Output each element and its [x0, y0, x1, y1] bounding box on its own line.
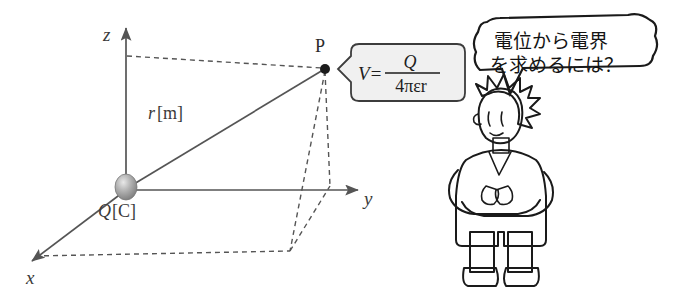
- point-p-marker: [320, 64, 330, 74]
- dashed-floor-bottom-edge: [35, 251, 290, 256]
- character-right-shoe: [504, 268, 539, 286]
- y-axis-label: y: [362, 188, 373, 209]
- character-left-arm: [449, 170, 540, 214]
- speech-bubble-line1: 電位から電界: [494, 30, 608, 52]
- charge-sphere: [115, 174, 137, 200]
- character-mouth: [490, 133, 503, 136]
- character-coat-lapel: [489, 152, 511, 175]
- y-axis: y: [126, 188, 373, 209]
- z-axis-label: z: [102, 24, 111, 45]
- z-axis: z: [102, 24, 126, 190]
- point-p-label: P: [315, 36, 325, 56]
- distance-label: r[m]: [148, 103, 183, 123]
- character-left-shoe: [463, 268, 498, 286]
- radius-line-r: [129, 70, 323, 187]
- charge-sphere-group: Q[C]: [98, 174, 137, 221]
- charge-symbol: Q: [98, 201, 111, 221]
- scientist-character: [449, 74, 553, 286]
- dashed-floor-right-edge: [290, 186, 330, 251]
- character-left-leg: [470, 232, 494, 272]
- dashed-z-to-p: [127, 56, 322, 68]
- character-left-eye: [488, 112, 490, 126]
- speech-bubble: 電位から電界 を求めるには？: [474, 14, 657, 94]
- character-right-eye: [501, 112, 503, 126]
- formula-lhs: V=: [358, 63, 382, 84]
- distance-unit: [m]: [157, 103, 183, 123]
- speech-bubble-line2: を求めるには？: [490, 54, 623, 76]
- formula-denominator: 4πεr: [395, 76, 427, 96]
- formula-numerator: Q: [404, 52, 417, 72]
- character-right-leg: [508, 232, 532, 272]
- charge-unit: [C]: [112, 201, 136, 221]
- x-axis-label: x: [25, 267, 35, 288]
- dashed-p-to-y-axis: [325, 71, 330, 186]
- charge-label: Q[C]: [98, 201, 136, 221]
- diagram-canvas: z y x r[m] Q[C]: [0, 0, 675, 292]
- formula-callout: V= Q 4πεr: [338, 44, 465, 101]
- physics-diagram-figure: z y x r[m] Q[C]: [0, 0, 675, 292]
- dashed-p-to-floor: [290, 71, 325, 251]
- character-right-arm: [462, 172, 553, 216]
- distance-symbol: r: [148, 103, 156, 123]
